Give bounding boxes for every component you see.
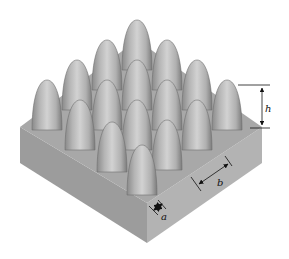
label-a: a: [161, 211, 167, 222]
substrate-bump-array-diagram: h b a: [0, 0, 289, 259]
label-h: h: [265, 103, 271, 114]
label-b: b: [217, 177, 223, 188]
bump: [32, 80, 62, 130]
bump: [212, 80, 242, 130]
